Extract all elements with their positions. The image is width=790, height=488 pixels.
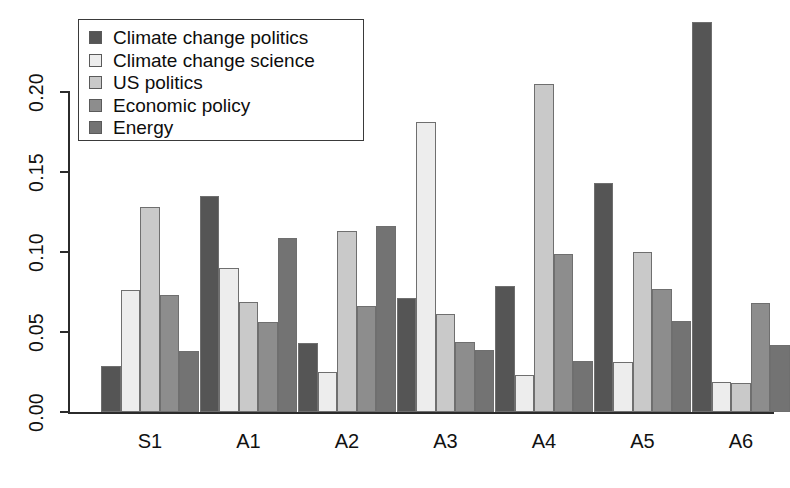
y-axis-tick-label: 0.20 — [0, 81, 56, 104]
bar — [613, 362, 633, 412]
bar — [672, 321, 692, 412]
x-axis-group-label: S1 — [110, 430, 190, 453]
bar — [278, 238, 298, 412]
y-axis-tick — [60, 91, 68, 93]
legend-swatch-icon — [89, 99, 102, 112]
bar — [554, 254, 574, 412]
legend-item-label: US politics — [113, 73, 203, 92]
y-axis-tick-label: 0.10 — [0, 241, 56, 264]
y-axis-tick — [60, 251, 68, 253]
legend-swatch-icon — [89, 76, 102, 89]
x-axis-group-label: A6 — [701, 430, 781, 453]
bar — [573, 361, 593, 412]
y-axis-tick-label-text: 0.10 — [25, 233, 48, 272]
bar — [337, 231, 357, 412]
y-axis-tick — [60, 331, 68, 333]
y-axis-tick-label: 0.05 — [0, 321, 56, 344]
bar — [751, 303, 771, 412]
y-axis-tick — [60, 171, 68, 173]
y-axis-tick-label-text: 0.00 — [25, 393, 48, 432]
x-axis-group-label: A1 — [209, 430, 289, 453]
bar — [534, 84, 554, 412]
x-axis-group-label: A3 — [406, 430, 486, 453]
caption-strip — [0, 470, 780, 488]
bar — [140, 207, 160, 412]
legend-item: Energy — [89, 117, 173, 138]
y-axis-line — [68, 91, 70, 412]
bar — [160, 295, 180, 412]
bar — [298, 343, 318, 412]
legend-item: Economic policy — [89, 95, 250, 116]
bar — [318, 372, 338, 412]
bar — [475, 350, 495, 412]
legend-swatch-icon — [89, 121, 102, 134]
bar — [121, 290, 141, 412]
legend-item: US politics — [89, 72, 203, 93]
bar — [239, 302, 259, 412]
y-axis-tick-label-text: 0.05 — [25, 313, 48, 352]
y-axis-tick — [60, 411, 68, 413]
legend-swatch-icon — [89, 54, 102, 67]
y-axis-tick-label-text: 0.20 — [25, 73, 48, 112]
bar — [652, 289, 672, 412]
bar — [633, 252, 653, 412]
y-axis-tick-label-text: 0.15 — [25, 153, 48, 192]
legend: Climate change politicsClimate change sc… — [78, 19, 364, 141]
bar — [219, 268, 239, 412]
legend-item-label: Climate change science — [113, 51, 315, 70]
bar — [515, 375, 535, 412]
x-axis-line — [68, 412, 774, 414]
legend-item-label: Energy — [113, 118, 173, 137]
bar — [101, 366, 121, 412]
bar — [357, 306, 377, 412]
bar — [712, 382, 732, 412]
legend-swatch-icon — [89, 31, 102, 44]
bar — [731, 383, 751, 412]
bar — [179, 351, 199, 412]
x-axis-group-label: A2 — [307, 430, 387, 453]
bar — [397, 298, 417, 412]
x-axis-group-label: A4 — [504, 430, 584, 453]
legend-item: Climate change science — [89, 50, 315, 71]
bar — [594, 183, 614, 412]
bar — [455, 342, 475, 412]
bar — [376, 226, 396, 412]
bar — [495, 286, 515, 412]
y-axis-tick-label: 0.00 — [0, 401, 56, 424]
bar — [258, 322, 278, 412]
bar — [436, 314, 456, 412]
x-axis-group-label: A5 — [603, 430, 683, 453]
legend-item: Climate change politics — [89, 27, 308, 48]
bar — [692, 22, 712, 412]
bar — [200, 196, 220, 412]
bar — [416, 122, 436, 412]
legend-item-label: Economic policy — [113, 96, 250, 115]
y-axis-tick-label: 0.15 — [0, 161, 56, 184]
bar — [770, 345, 790, 412]
legend-item-label: Climate change politics — [113, 28, 308, 47]
